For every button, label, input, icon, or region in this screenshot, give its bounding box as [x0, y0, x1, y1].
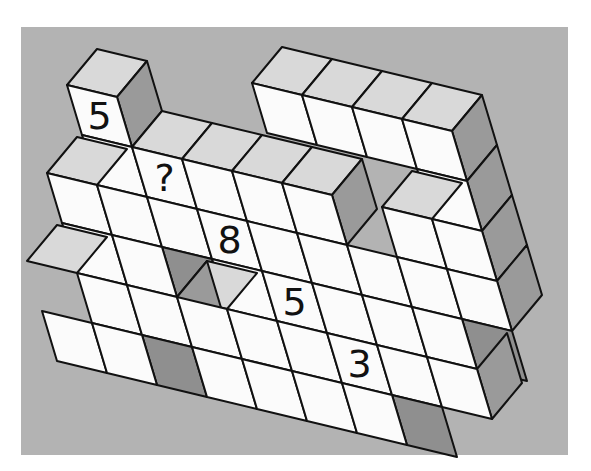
unknown-value-label: ?	[154, 156, 174, 200]
number-label: 3	[347, 342, 371, 386]
number-label: 5	[87, 94, 111, 138]
number-label: 8	[217, 218, 241, 262]
cube-puzzle-illustration: 5?853	[0, 0, 591, 471]
number-label: 5	[282, 280, 306, 324]
